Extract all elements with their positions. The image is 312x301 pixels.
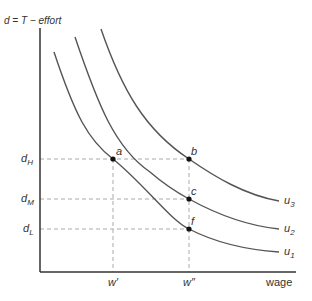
y-axis-label: d = T − effort <box>4 15 62 26</box>
curve-label-u3: u3 <box>284 194 295 209</box>
label-a: a <box>116 145 122 157</box>
point-a <box>110 156 115 161</box>
label-c: c <box>191 185 197 197</box>
point-f <box>186 226 191 231</box>
curve-u2 <box>75 37 279 229</box>
curve-u3 <box>101 29 279 201</box>
ytick-dM: dM <box>21 192 34 207</box>
ytick-dH: dH <box>21 152 33 167</box>
xtick-w2: w″ <box>183 276 196 288</box>
curve-label-u2: u2 <box>284 222 295 237</box>
label-b: b <box>191 145 197 157</box>
indifference-diagram: a b c f d = T − effort dH dM dL w′ w″ wa… <box>0 0 312 301</box>
curve-label-u1: u1 <box>284 245 295 260</box>
point-b <box>186 156 191 161</box>
xtick-w1: w′ <box>108 276 119 288</box>
ytick-dL: dL <box>23 222 34 237</box>
x-axis-label: wage <box>265 276 292 288</box>
label-f: f <box>191 215 195 227</box>
point-c <box>186 196 191 201</box>
